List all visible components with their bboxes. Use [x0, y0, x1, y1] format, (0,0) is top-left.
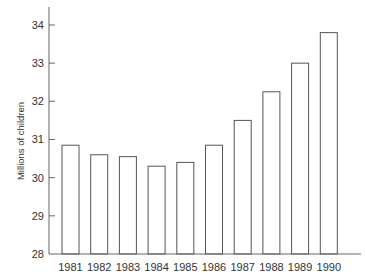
bar-1984 [148, 166, 165, 254]
y-tick-label: 33 [32, 57, 44, 69]
x-tick-label: 1985 [173, 261, 197, 273]
x-tick-label: 1987 [230, 261, 254, 273]
x-tick-label: 1986 [202, 261, 226, 273]
y-axis-label: Millions of children [15, 102, 26, 180]
bar-1983 [119, 157, 136, 254]
bar-1982 [91, 155, 108, 254]
x-tick-label: 1982 [87, 261, 111, 273]
y-tick-label: 28 [32, 248, 44, 260]
x-tick-label: 1990 [317, 261, 341, 273]
x-tick-label: 1981 [58, 261, 82, 273]
y-tick-label: 31 [32, 133, 44, 145]
y-tick-label: 34 [32, 19, 44, 31]
bar-1986 [206, 145, 223, 254]
y-tick-label: 30 [32, 172, 44, 184]
x-tick-label: 1989 [288, 261, 312, 273]
y-tick-label: 29 [32, 210, 44, 222]
bar-1985 [177, 162, 194, 254]
bar-1981 [62, 145, 79, 254]
x-axis: 1981198219831984198519861987198819891990 [49, 254, 361, 273]
y-axis: 28293031323334 [32, 7, 55, 260]
bar-1988 [263, 92, 280, 254]
bars [62, 33, 337, 254]
bar-1990 [320, 33, 337, 254]
bar-chart: 28293031323334 1981198219831984198519861… [0, 0, 365, 280]
x-tick-label: 1984 [144, 261, 168, 273]
x-tick-label: 1983 [116, 261, 140, 273]
x-tick-label: 1988 [259, 261, 283, 273]
bar-1989 [292, 63, 309, 254]
bar-1987 [234, 120, 251, 254]
y-tick-label: 32 [32, 95, 44, 107]
